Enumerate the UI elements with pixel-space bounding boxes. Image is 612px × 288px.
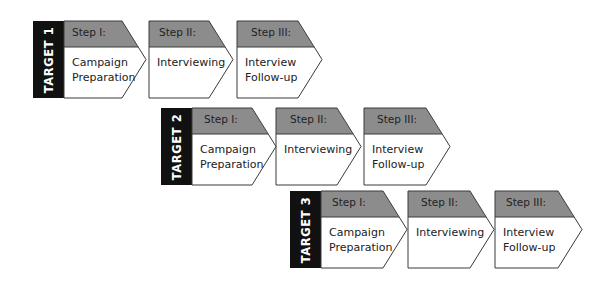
target-3-step-2: Step II: Interviewing <box>408 191 494 268</box>
target-2-step-3: Step III: Interview Follow-up <box>364 108 450 185</box>
target-3-label: TARGET 3 <box>299 196 313 263</box>
target-2-step-2: Step II: Interviewing <box>276 108 361 185</box>
step-description: Campaign Preparation <box>72 55 136 85</box>
target-1-step-1: Step I: Campaign Preparation <box>64 21 148 98</box>
step-heading: Step III: <box>506 196 546 208</box>
step-heading: Step III: <box>377 113 417 125</box>
step-heading: Step II: <box>159 26 196 38</box>
step-heading: Step I: <box>72 26 106 38</box>
step-heading: Step I: <box>332 196 366 208</box>
step-description: Interview Follow-up <box>372 142 424 172</box>
step-description: Campaign Preparation <box>200 142 264 172</box>
target-2-row: TARGET 2 Step I: Campaign Preparation St… <box>161 108 461 185</box>
step-description: Campaign Preparation <box>329 225 393 255</box>
step-description: Interviewing <box>416 225 484 240</box>
target-1-step-3: Step III: Interview Follow-up <box>237 21 322 98</box>
step-heading: Step II: <box>421 196 458 208</box>
target-2-step-1: Step I: Campaign Preparation <box>192 108 276 185</box>
target-3-step-3: Step III: Interview Follow-up <box>495 191 582 268</box>
target-2-label: TARGET 2 <box>170 113 184 180</box>
step-description: Interview Follow-up <box>245 55 297 85</box>
target-1-step-2: Step II: Interviewing <box>149 21 233 98</box>
target-1-row: TARGET 1 Step I: Campaign Preparation St… <box>33 21 333 98</box>
step-description: Interviewing <box>284 142 352 157</box>
step-heading: Step I: <box>204 113 238 125</box>
target-3-label-box: TARGET 3 <box>290 191 321 268</box>
target-1-label-box: TARGET 1 <box>33 21 64 98</box>
step-heading: Step II: <box>290 113 327 125</box>
target-2-label-box: TARGET 2 <box>161 108 192 185</box>
step-heading: Step III: <box>251 26 291 38</box>
target-3-row: TARGET 3 Step I: Campaign Preparation St… <box>290 191 590 268</box>
step-description: Interviewing <box>157 55 225 70</box>
step-description: Interview Follow-up <box>503 225 555 255</box>
target-3-step-1: Step I: Campaign Preparation <box>321 191 407 268</box>
target-1-label: TARGET 1 <box>42 26 56 93</box>
